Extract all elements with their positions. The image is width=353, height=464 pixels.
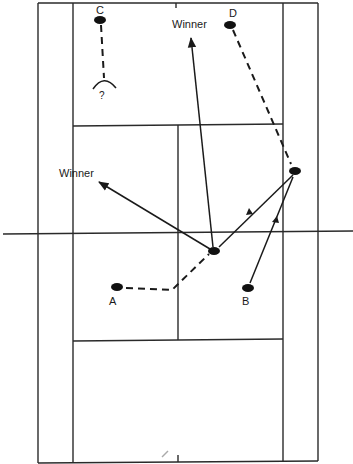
label-a: A: [109, 295, 117, 307]
players: [94, 16, 301, 292]
mid-arrow-right-to-net-icon: [246, 208, 253, 215]
label-d: D: [229, 7, 237, 19]
player-a-marker: [111, 283, 123, 291]
pencil-mark: [162, 451, 168, 457]
court-lines: [3, 3, 353, 463]
player-b-marker: [242, 284, 254, 292]
right-player-marker: [289, 167, 301, 175]
label-question: ?: [99, 90, 105, 101]
label-b: B: [242, 295, 249, 307]
shot-net-to-winner-left: [99, 182, 210, 249]
shot-lines: [99, 38, 293, 283]
player-d-marker: [224, 21, 236, 29]
label-winner-left: Winner: [59, 167, 94, 179]
shot-b-to-right: [250, 177, 293, 283]
label-c: C: [96, 4, 104, 16]
shot-right-to-net: [219, 175, 293, 247]
return-arc-icon: [93, 81, 116, 89]
mid-arrow-b-to-right-icon: [272, 216, 279, 223]
player-c-marker: [94, 16, 106, 24]
path-a-to-net-player: [126, 254, 209, 290]
shot-net-to-winner-top: [191, 38, 213, 247]
tennis-court-diagram: C D A B ? Winner Winner: [0, 0, 353, 464]
label-winner-top: Winner: [172, 18, 207, 30]
path-c-to-question: [101, 25, 104, 78]
net-player-marker: [208, 247, 220, 255]
